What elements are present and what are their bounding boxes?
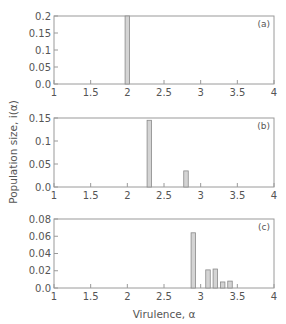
panel-b: 11.522.533.540.00.050.10.15(b) [29, 113, 277, 202]
panel-label: (a) [257, 19, 270, 29]
x-tick-label: 3 [197, 291, 203, 302]
y-tick-label: 0.1 [35, 136, 51, 147]
x-tick-label: 1 [51, 87, 57, 98]
bar [213, 269, 218, 288]
x-axis-title: Virulence, α [133, 308, 196, 320]
y-tick-label: 0.05 [29, 62, 51, 73]
x-tick-label: 4 [271, 87, 277, 98]
panel-label: (b) [257, 121, 270, 131]
bar [184, 171, 189, 187]
bar [220, 282, 225, 288]
y-tick-label: 0.2 [35, 11, 51, 22]
y-tick-label: 0.02 [29, 265, 51, 276]
x-tick-label: 2.5 [156, 87, 172, 98]
y-tick-label: 0.04 [29, 248, 51, 259]
x-tick-label: 1.5 [83, 87, 99, 98]
panel-a: 11.522.533.540.00.050.10.150.2(a) [29, 11, 277, 99]
x-tick-label: 3.5 [229, 190, 245, 201]
y-tick-label: 0.15 [29, 28, 51, 39]
y-tick-label: 0.1 [35, 45, 51, 56]
y-tick-label: 0.05 [29, 159, 51, 170]
x-tick-label: 2 [124, 190, 130, 201]
bar [228, 281, 233, 288]
panels: 11.522.533.540.00.050.10.150.2(a)11.522.… [29, 11, 277, 303]
panel-label: (c) [258, 222, 270, 232]
plot-frame [54, 118, 274, 187]
x-tick-label: 4 [271, 291, 277, 302]
x-tick-label: 2 [124, 87, 130, 98]
bar [206, 270, 211, 288]
bar [147, 120, 152, 187]
x-tick-label: 2.5 [156, 291, 172, 302]
x-tick-label: 1 [51, 190, 57, 201]
y-tick-label: 0.0 [35, 79, 51, 90]
y-tick-label: 0.15 [29, 113, 51, 124]
x-tick-label: 1.5 [83, 291, 99, 302]
x-tick-label: 2 [124, 291, 130, 302]
x-tick-label: 3 [197, 190, 203, 201]
y-tick-label: 0.0 [35, 283, 51, 294]
plot-frame [54, 219, 274, 288]
x-tick-label: 4 [271, 190, 277, 201]
x-tick-label: 3 [197, 87, 203, 98]
y-axis-title: Population size, i(α) [7, 100, 19, 204]
x-tick-label: 1 [51, 291, 57, 302]
y-tick-label: 0.08 [29, 214, 51, 225]
chart-figure: 11.522.533.540.00.050.10.150.2(a)11.522.… [0, 0, 286, 324]
bar [125, 16, 130, 84]
plot-frame [54, 16, 274, 84]
x-tick-label: 3.5 [229, 87, 245, 98]
bar [191, 233, 196, 288]
x-tick-label: 3.5 [229, 291, 245, 302]
x-tick-label: 1.5 [83, 190, 99, 201]
y-tick-label: 0.06 [29, 231, 51, 242]
y-tick-label: 0.0 [35, 182, 51, 193]
x-tick-label: 2.5 [156, 190, 172, 201]
panel-c: 11.522.533.540.00.020.040.060.08(c) [29, 214, 277, 303]
